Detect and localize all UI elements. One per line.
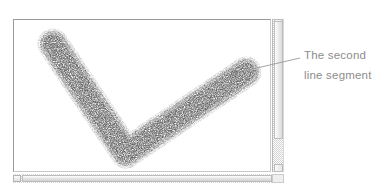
vertical-scrollbar[interactable] <box>272 19 284 172</box>
scroll-left-arrow-icon[interactable] <box>13 175 21 182</box>
horizontal-scrollbar-thumb[interactable] <box>22 175 272 182</box>
scrollbar-corner <box>272 174 284 183</box>
horizontal-scrollbar[interactable] <box>13 174 284 183</box>
scroll-down-arrow-icon[interactable] <box>274 164 283 172</box>
checkmark-brush-stroke <box>14 20 271 172</box>
callout-line-1: The second <box>304 45 392 65</box>
second-segment-callout: The second line segment <box>304 45 392 85</box>
callout-line-2: line segment <box>304 65 392 85</box>
figure-root: The second line segment <box>0 0 392 191</box>
drawing-canvas-window <box>13 19 286 183</box>
vertical-scrollbar-thumb[interactable] <box>274 21 283 139</box>
canvas-surface[interactable] <box>14 20 270 171</box>
canvas-frame <box>13 19 271 172</box>
